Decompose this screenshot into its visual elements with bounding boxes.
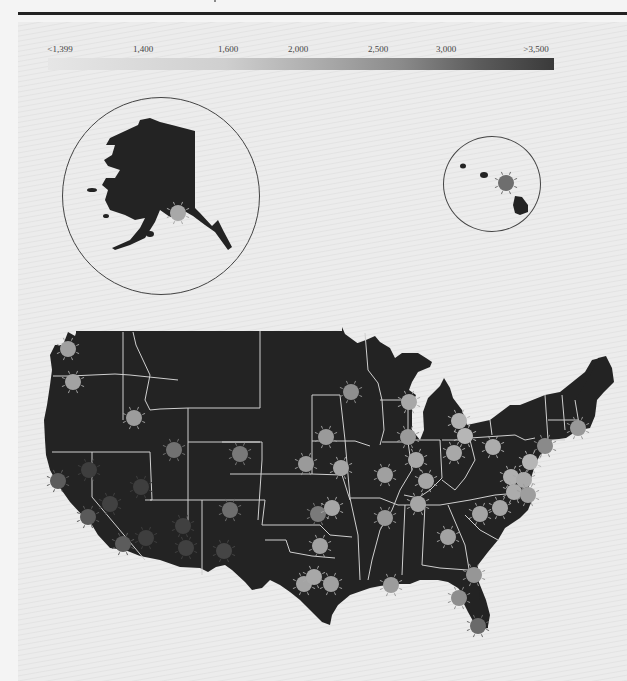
alaska-shape [102,118,232,250]
alaska-island [146,231,154,237]
new-england-shape [575,356,614,430]
hawaii-island [480,172,488,178]
city-marker [495,172,517,194]
map-svg [0,0,627,681]
hawaii-island [460,164,466,169]
alaska-island [87,188,97,192]
hawaii-big-island [513,196,528,215]
alaska-island [103,214,109,218]
